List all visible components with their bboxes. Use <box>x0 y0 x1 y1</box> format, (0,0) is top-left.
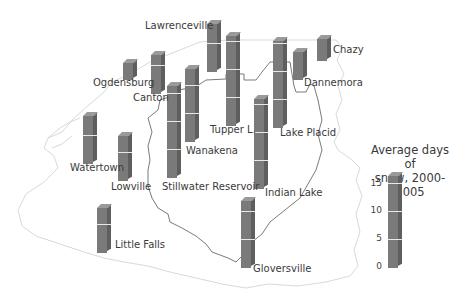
bar-scale-tick <box>185 113 199 114</box>
bar-tupper-l <box>226 30 242 126</box>
lake-shoreline <box>48 118 80 148</box>
bar-lake-placid <box>273 35 289 128</box>
bar-front-face <box>207 24 217 72</box>
bar-side-face <box>251 197 255 266</box>
bar-scale-tick <box>185 85 199 86</box>
bar-scale-tick <box>118 152 132 153</box>
label-indian-lake: Indian Lake <box>265 187 322 198</box>
bar-scale-tick <box>167 149 181 150</box>
bar-front-face <box>317 39 327 61</box>
bar-scale-tick <box>97 224 111 225</box>
bar-scale-tick <box>83 135 97 136</box>
bar-scale-tick <box>273 71 287 72</box>
bar-scale-tick <box>388 211 402 212</box>
legend-tick-10: 10 <box>368 205 382 215</box>
label-little-falls: Little Falls <box>115 239 165 250</box>
bar-front-face <box>273 41 283 128</box>
label-lawrenceville: Lawrenceville <box>145 20 213 31</box>
bar-stillwater-reservoir <box>167 80 183 178</box>
bar-front-face <box>241 201 251 268</box>
bar-scale-tick <box>207 43 221 44</box>
bar-little-falls <box>97 202 113 253</box>
bar-scale-tick <box>254 160 268 161</box>
legend-tick-5: 5 <box>368 233 382 243</box>
bar-front-face <box>293 52 303 80</box>
bar-scale-tick <box>241 239 255 240</box>
bar-front-face <box>388 176 398 268</box>
bar-side-face <box>93 112 97 162</box>
bar-scale-tick <box>388 239 402 240</box>
bar-scale-tick <box>254 132 268 133</box>
bar-scale-tick <box>254 104 268 105</box>
bar-scale-tick <box>273 43 287 44</box>
bar-side-face <box>303 48 307 78</box>
bar-front-face <box>118 136 128 181</box>
legend-bar-column <box>388 170 404 268</box>
bar-gloversville <box>241 195 257 268</box>
label-gloversville: Gloversville <box>253 263 311 274</box>
bar-scale-tick <box>151 65 165 66</box>
label-tupper-lake: Tupper L. <box>210 124 256 135</box>
legend-tick-15: 15 <box>368 178 382 188</box>
bar-side-face <box>195 65 199 140</box>
bar-scale-tick <box>167 121 181 122</box>
bar-dannemora <box>293 46 309 80</box>
bar-side-face <box>161 51 165 92</box>
bar-front-face <box>97 208 107 253</box>
bar-scale-tick <box>226 69 240 70</box>
bar-scale-tick <box>226 41 240 42</box>
bar-watertown <box>83 110 99 164</box>
bar-scale-tick <box>167 93 181 94</box>
label-chazy: Chazy <box>333 44 364 55</box>
bar-scale-tick <box>388 183 402 184</box>
bar-lowville <box>118 130 134 181</box>
bar-wanakena <box>185 63 201 142</box>
bar-scale-tick <box>226 97 240 98</box>
bar-front-face <box>151 55 161 94</box>
bar-scale-tick <box>241 211 255 212</box>
label-lake-placid: Lake Placid <box>280 127 336 138</box>
bar-side-face <box>107 204 111 251</box>
label-wanakena: Wanakena <box>186 145 238 156</box>
bar-side-face <box>236 32 240 124</box>
label-lowville: Lowville <box>111 181 151 192</box>
label-dannemora: Dannemora <box>304 77 363 88</box>
bar-side-face <box>264 95 268 187</box>
bar-side-face <box>283 37 287 126</box>
bar-front-face <box>185 69 195 142</box>
label-canton: Canton <box>133 92 169 103</box>
bar-side-face <box>177 82 181 176</box>
bar-side-face <box>217 20 221 70</box>
bar-chazy <box>317 33 333 61</box>
legend-tick-0: 0 <box>368 261 382 271</box>
bar-front-face <box>226 36 236 126</box>
legend-title: Average days of snow, 2000-2005 <box>368 143 452 199</box>
bar-scale-tick <box>273 99 287 100</box>
label-stillwater-reservoir: Stillwater Reservoir <box>162 181 259 192</box>
bar-front-face <box>254 99 264 189</box>
legend-title-line1: Average days of <box>368 143 452 171</box>
bar-side-face <box>128 132 132 179</box>
label-ogdensburg: Ogdensburg <box>93 77 154 88</box>
bar-indian-lake <box>254 93 270 189</box>
bar-front-face <box>83 116 93 164</box>
label-watertown: Watertown <box>70 162 124 173</box>
bar-side-face <box>398 172 402 266</box>
